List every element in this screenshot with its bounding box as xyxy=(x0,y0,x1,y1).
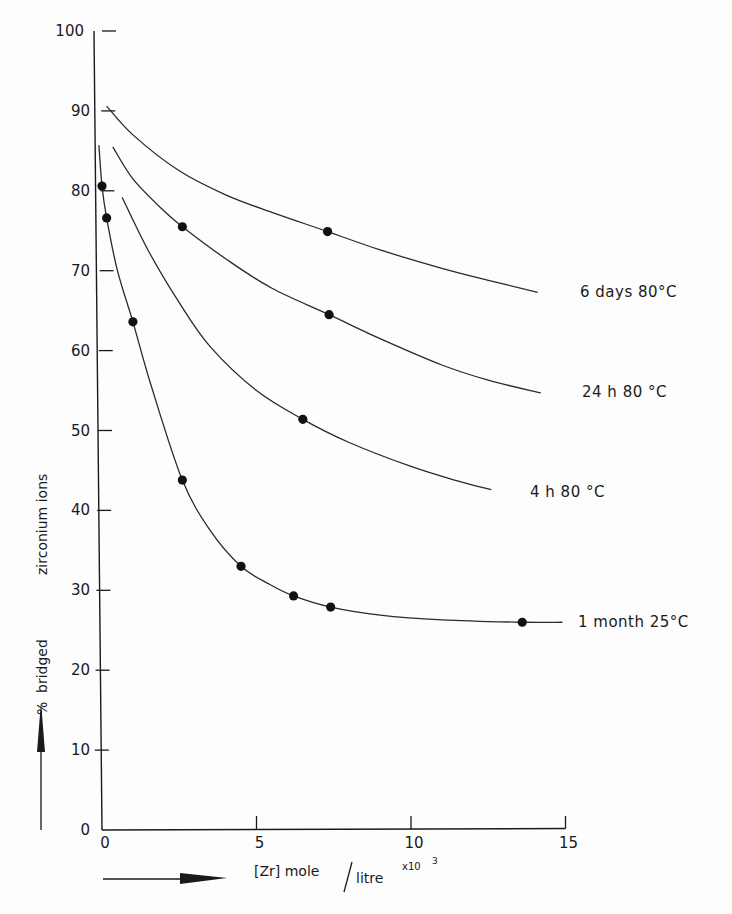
y-tick-label: 100 xyxy=(55,22,84,40)
y-tick-label: 80 xyxy=(71,182,90,200)
x-axis-title-denominator: litre xyxy=(356,870,383,886)
series-labels: 6 days 80°C24 h 80 °C4 h 80 °C1 month 25… xyxy=(530,283,689,631)
x-axis-line xyxy=(102,829,566,831)
data-point xyxy=(323,227,332,236)
y-axis-arrow-icon xyxy=(37,702,45,830)
y-tick-label: 0 xyxy=(80,821,90,839)
data-point xyxy=(97,181,106,190)
x-tick-label: 15 xyxy=(559,834,578,852)
data-point xyxy=(326,602,335,611)
series-label: 24 h 80 °C xyxy=(582,383,667,401)
data-point xyxy=(102,213,111,222)
x-tick-label: 10 xyxy=(404,834,423,852)
y-tick-label: 90 xyxy=(71,102,90,120)
data-point xyxy=(128,317,137,326)
data-points xyxy=(97,181,526,626)
series-line xyxy=(99,145,562,622)
x-axis-title-exponent: 3 xyxy=(432,856,438,866)
y-tick-label: 50 xyxy=(71,422,90,440)
y-tick-label: 40 xyxy=(71,501,90,519)
data-point xyxy=(325,310,334,319)
tick-labels: 0102030405060708090100051015 xyxy=(55,22,578,852)
series-label: 4 h 80 °C xyxy=(530,483,605,501)
y-axis-title: % bridged zirconium ions xyxy=(34,474,50,715)
series-curves xyxy=(99,106,562,622)
x-axis-title-main: [Zr] mole xyxy=(254,863,319,879)
data-point xyxy=(289,591,298,600)
y-tick-label: 20 xyxy=(71,661,90,679)
series-line xyxy=(107,106,538,292)
y-tick-label: 60 xyxy=(71,342,90,360)
data-point xyxy=(518,618,527,627)
x-axis-title-multiplier: x10 xyxy=(402,861,421,872)
series-label: 1 month 25°C xyxy=(578,613,689,631)
data-point xyxy=(298,415,307,424)
x-axis-arrow-icon xyxy=(103,873,227,884)
x-tick-label: 5 xyxy=(255,834,265,852)
y-tick-label: 30 xyxy=(71,581,90,599)
chart-figure: 0102030405060708090100051015 6 days 80°C… xyxy=(0,0,732,914)
y-axis-title-percent: % xyxy=(34,702,50,715)
series-line xyxy=(113,147,541,393)
x-tick-label: 0 xyxy=(100,834,110,852)
data-point xyxy=(236,562,245,571)
y-axis-title-zirconium: zirconium ions xyxy=(34,474,50,575)
y-tick-label: 70 xyxy=(71,262,90,280)
y-tick-label: 10 xyxy=(71,741,90,759)
data-point xyxy=(178,475,187,484)
x-axis-title: [Zr] mole litre x10 3 xyxy=(254,856,438,892)
y-axis-title-bridged: bridged xyxy=(34,639,50,693)
series-line xyxy=(122,197,491,489)
series-label: 6 days 80°C xyxy=(580,283,677,301)
data-point xyxy=(178,222,187,231)
